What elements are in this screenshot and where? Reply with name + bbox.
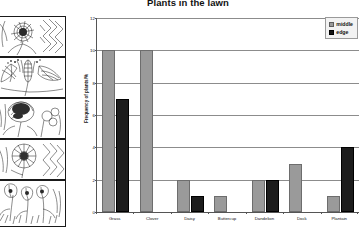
bar-grass-middle[interactable] xyxy=(102,50,115,212)
x-axis-tick-mark xyxy=(246,212,247,214)
x-axis-tick-daisy: Daisy xyxy=(171,212,208,227)
clover-illustration xyxy=(0,99,65,138)
illustration-strip xyxy=(0,0,70,227)
x-axis-tick-buttercup: Buttercup xyxy=(208,212,245,227)
x-axis-tick-grass: Grass xyxy=(96,212,133,227)
x-axis-labels: GrassCloverDaisyButtercupDandelionDockPl… xyxy=(96,212,358,227)
bar-daisy-middle[interactable] xyxy=(177,180,190,212)
buttercup-plate xyxy=(0,180,66,227)
plot-area: 024681012 xyxy=(96,18,359,213)
bar-group xyxy=(134,18,171,212)
x-axis-tick-mark xyxy=(96,212,97,214)
bar-chart: Plants in the lawn Frequency of plants/%… xyxy=(70,0,364,227)
plantain-plate xyxy=(0,57,66,98)
buttercup-illustration xyxy=(0,181,65,226)
bar-grass-edge[interactable] xyxy=(116,99,129,212)
x-axis-tick-mark xyxy=(171,212,172,214)
bar-dock-middle[interactable] xyxy=(289,164,302,213)
bar-dandelion-middle[interactable] xyxy=(252,180,265,212)
bar-plantain-edge[interactable] xyxy=(341,147,354,212)
plantain-illustration xyxy=(0,58,65,97)
bar-group xyxy=(284,18,321,212)
bar-buttercup-middle[interactable] xyxy=(214,196,227,212)
x-axis-tick-dandelion: Dandelion xyxy=(246,212,283,227)
bar-group xyxy=(247,18,284,212)
x-axis-tick-mark xyxy=(357,212,358,214)
bar-dandelion-edge[interactable] xyxy=(266,180,279,212)
daisy-plate xyxy=(0,139,66,180)
x-axis-tick-plantain: Plantain xyxy=(321,212,358,227)
dandelion-flower-plate xyxy=(0,16,66,57)
x-axis-tick-mark xyxy=(208,212,209,214)
y-axis-label: Frequency of plants/% xyxy=(84,51,89,147)
bar-clover-middle[interactable] xyxy=(140,50,153,212)
bar-plantain-middle[interactable] xyxy=(327,196,340,212)
legend-swatch-middle-icon xyxy=(329,22,334,27)
x-axis-tick-dock: Dock xyxy=(283,212,320,227)
bar-groups xyxy=(97,18,359,212)
bar-daisy-edge[interactable] xyxy=(191,196,204,212)
x-axis-tick-mark xyxy=(283,212,284,214)
bar-group xyxy=(172,18,209,212)
clover-plate xyxy=(0,98,66,139)
daisy-illustration xyxy=(0,140,65,179)
chart-title: Plants in the lawn xyxy=(98,0,278,8)
x-axis-tick-mark xyxy=(321,212,322,214)
bar-group xyxy=(97,18,134,212)
legend-item-middle[interactable]: middle xyxy=(329,20,353,28)
chart-legend[interactable]: middle edge xyxy=(325,17,358,39)
x-axis-tick-clover: Clover xyxy=(133,212,170,227)
bar-group xyxy=(322,18,359,212)
bar-group xyxy=(209,18,246,212)
legend-label-edge: edge xyxy=(336,28,348,36)
x-axis-tick-mark xyxy=(133,212,134,214)
legend-label-middle: middle xyxy=(336,20,353,28)
legend-item-edge[interactable]: edge xyxy=(329,28,353,36)
dandelion-flower-illustration xyxy=(0,17,65,56)
legend-swatch-edge-icon xyxy=(329,30,334,35)
